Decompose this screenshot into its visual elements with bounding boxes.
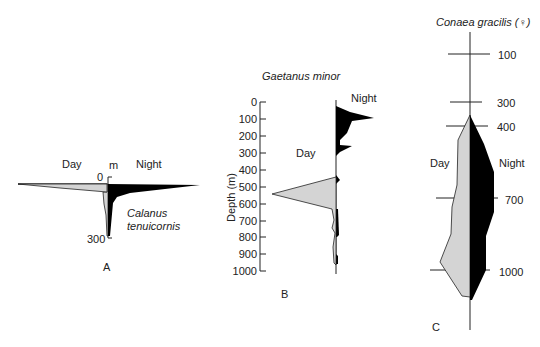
panel-b-ylabel: Depth (m) bbox=[225, 173, 237, 222]
panel-b-tick-label: 800 bbox=[239, 231, 257, 243]
panel-a-species-line2: tenuicornis bbox=[127, 220, 181, 232]
panel-b-night-area bbox=[336, 106, 374, 156]
panel-a-letter: A bbox=[103, 261, 111, 273]
panel-b-letter: B bbox=[281, 288, 288, 300]
panel-a-night-label: Night bbox=[136, 158, 162, 170]
panel-b-day-label: Day bbox=[296, 147, 316, 159]
panel-c-night-area bbox=[470, 115, 494, 300]
panel-c-tick-label: 300 bbox=[497, 97, 515, 109]
panel-b-night-label: Night bbox=[351, 92, 377, 104]
panel-c-night-label: Night bbox=[499, 157, 525, 169]
panel-b-title: Gaetanus minor bbox=[262, 70, 342, 82]
panel-b-ticks bbox=[260, 102, 266, 271]
panel-b-tick-label: 300 bbox=[239, 147, 257, 159]
panel-a-top-tick: 0 bbox=[97, 171, 103, 183]
panel-b-tick-label: 200 bbox=[239, 130, 257, 142]
panel-b-tick-label: 600 bbox=[239, 198, 257, 210]
figure-canvas: Day Night m 0 300 Calanus tenuicornis A … bbox=[0, 0, 540, 347]
panel-b-night-mid bbox=[336, 209, 339, 237]
panel-a: Day Night m 0 300 Calanus tenuicornis A bbox=[18, 158, 200, 273]
panel-c-letter: C bbox=[432, 321, 440, 333]
panel-b-tick-label: 900 bbox=[239, 248, 257, 260]
panel-a-unit: m bbox=[109, 159, 118, 171]
panel-c-day-label: Day bbox=[430, 157, 450, 169]
panel-a-day-label: Day bbox=[62, 158, 82, 170]
panel-b-night-small bbox=[336, 175, 340, 184]
panel-b-tick-label: 400 bbox=[239, 164, 257, 176]
panel-c-tick-label: 100 bbox=[498, 49, 516, 61]
panel-c-tick-label: 1000 bbox=[499, 266, 523, 278]
panel-b-tick-label: 500 bbox=[239, 181, 257, 193]
panel-b-tick-label: 700 bbox=[239, 215, 257, 227]
panel-c: Conaea gracilis (♀) 100 300 400 700 1000… bbox=[430, 16, 531, 333]
panel-c-tick-label: 400 bbox=[497, 121, 515, 133]
panel-a-day-area bbox=[18, 184, 108, 236]
panel-b-day-area bbox=[272, 177, 336, 265]
panel-b-tick-label: 100 bbox=[239, 113, 257, 125]
panel-a-bottom-tick: 300 bbox=[87, 233, 105, 245]
panel-a-day-spike bbox=[18, 184, 107, 192]
panel-c-title: Conaea gracilis (♀) bbox=[436, 16, 531, 28]
panel-b-tick-label: 0 bbox=[251, 96, 257, 108]
panel-c-tick-label: 700 bbox=[505, 194, 523, 206]
panel-b-tick-label: 1000 bbox=[233, 265, 257, 277]
panel-a-species-line1: Calanus bbox=[127, 207, 168, 219]
panel-b: Gaetanus minor Depth (m) 0 100 200 300 4… bbox=[225, 70, 377, 300]
